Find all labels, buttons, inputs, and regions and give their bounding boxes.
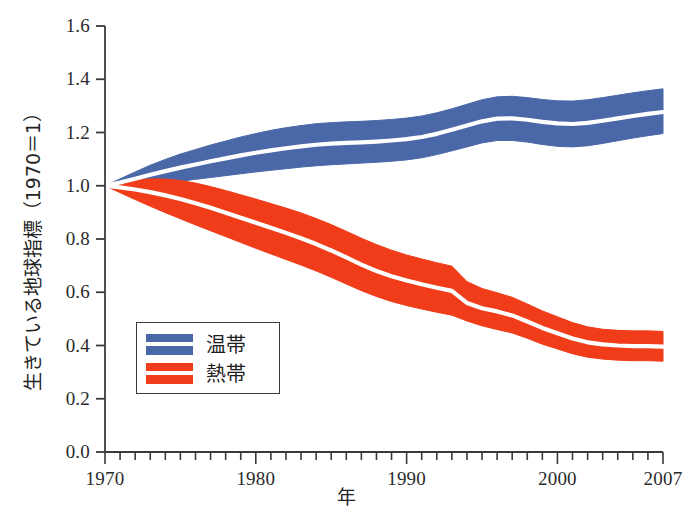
legend-swatch-temperate — [146, 334, 193, 355]
y-tick-label: 1.6 — [44, 16, 90, 35]
y-tick-label: 0.2 — [44, 389, 90, 408]
x-tick-label: 2000 — [520, 469, 594, 488]
legend-swatch-tropical — [146, 363, 193, 384]
chart-figure: 0.00.20.40.60.81.01.21.41.6 197019801990… — [0, 0, 693, 521]
y-tick-label: 0.0 — [44, 442, 90, 461]
y-tick-label: 1.2 — [44, 123, 90, 142]
series-band-temperate — [105, 89, 663, 186]
y-tick-label: 0.4 — [44, 336, 90, 355]
y-tick-label: 0.6 — [44, 282, 90, 301]
x-tick-label: 2007 — [626, 469, 693, 488]
x-tick-label: 1990 — [370, 469, 444, 488]
x-axis-title: 年 — [0, 487, 693, 507]
series-bands — [105, 89, 663, 361]
chart-canvas — [0, 0, 693, 521]
y-axis-title: 生きている地球指標（1970＝1） — [22, 62, 44, 432]
y-tick-label: 1.4 — [44, 69, 90, 88]
legend-label-tropical: 熱帯 — [206, 364, 246, 384]
legend-item-temperate[interactable]: 温帯 — [146, 330, 279, 359]
y-axis-ticks — [96, 26, 105, 452]
legend-label-temperate: 温帯 — [206, 335, 246, 355]
y-tick-label: 1.0 — [44, 176, 90, 195]
x-tick-label: 1970 — [68, 469, 142, 488]
x-axis-ticks — [105, 452, 663, 464]
legend-item-tropical[interactable]: 熱帯 — [146, 359, 279, 388]
chart-legend: 温帯 熱帯 — [136, 322, 280, 394]
y-tick-label: 0.8 — [44, 229, 90, 248]
x-tick-label: 1980 — [219, 469, 293, 488]
